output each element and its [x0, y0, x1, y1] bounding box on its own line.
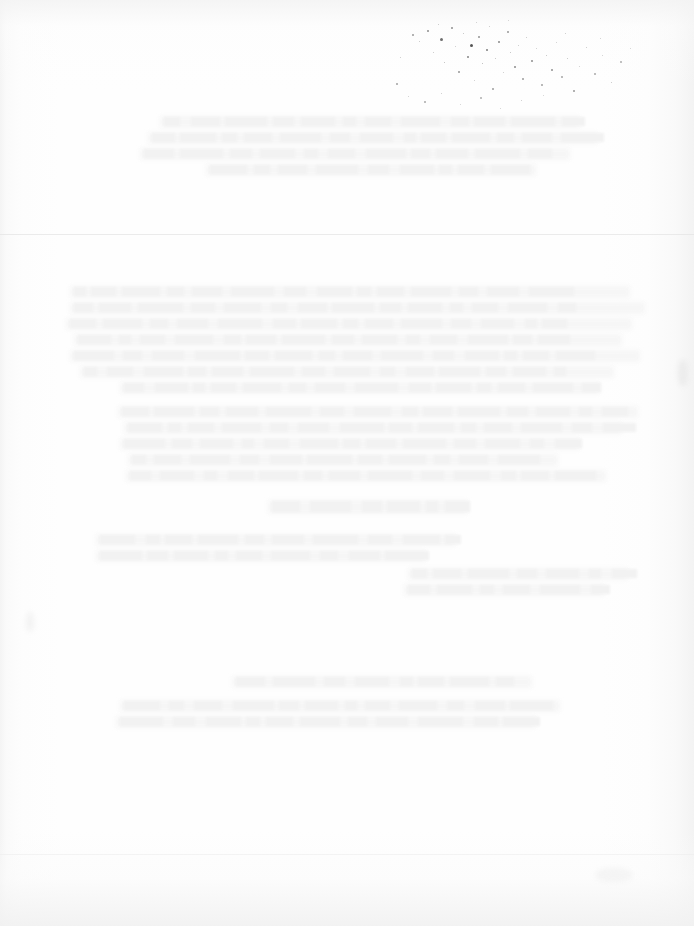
ghost-text-word	[266, 407, 311, 416]
ghost-text-word	[124, 439, 165, 448]
scan-seam-line-lower	[0, 854, 694, 855]
ghost-text-word	[554, 367, 566, 376]
ghost-text-word	[328, 149, 355, 158]
ghost-text-word	[319, 351, 335, 360]
ghost-text-word	[132, 455, 146, 464]
ghost-text-word	[497, 133, 514, 142]
ghost-text-word	[200, 439, 233, 448]
ghost-text-word	[144, 367, 183, 376]
ghost-text-word	[496, 677, 514, 686]
ghost-text-word	[423, 407, 452, 416]
ghost-text-word	[486, 367, 506, 376]
ghost-text-word	[418, 423, 454, 432]
ghost-text-word	[355, 383, 398, 392]
ghost-text-word	[451, 117, 469, 126]
ghost-text-word	[349, 551, 380, 560]
toner-speck	[620, 61, 622, 63]
ghost-text-word	[458, 407, 500, 416]
ghost-text-word	[215, 551, 228, 560]
ghost-text-word	[193, 383, 205, 392]
ghost-text-word	[100, 551, 142, 560]
ghost-text-word	[376, 717, 408, 726]
toner-speck	[543, 95, 544, 96]
ghost-text-word	[508, 303, 547, 312]
ghost-text-word	[195, 351, 240, 360]
ghost-text-word	[320, 407, 344, 416]
smudge-mark	[596, 868, 632, 882]
ghost-text-word	[401, 117, 440, 126]
toner-speck	[438, 24, 439, 25]
ghost-text-word	[421, 471, 444, 480]
toner-speck	[561, 76, 563, 78]
toner-speck	[518, 45, 519, 46]
ghost-text-word	[418, 677, 444, 686]
ghost-text-word	[421, 133, 446, 142]
ghost-text-word	[188, 423, 214, 432]
ghost-text-word	[324, 677, 345, 686]
ghost-text-word	[278, 165, 307, 174]
ghost-text-word	[513, 367, 546, 376]
ghost-text-word	[343, 351, 372, 360]
toner-speck	[400, 57, 401, 58]
ghost-text-word	[400, 677, 413, 686]
ghost-text-word	[362, 335, 397, 344]
ghost-text-word	[340, 423, 384, 432]
ghost-text-word	[402, 407, 418, 416]
toner-speck	[565, 33, 566, 34]
toner-speck	[482, 63, 483, 64]
ghost-text-word	[282, 335, 325, 344]
ghost-text-word	[198, 535, 238, 544]
toner-speck	[460, 104, 461, 105]
ghost-text-word	[334, 367, 370, 376]
toner-speck	[573, 90, 575, 92]
ghost-text-word	[555, 439, 582, 448]
ghost-text-word	[503, 717, 540, 726]
ghost-text-word	[400, 165, 434, 174]
toner-speck	[611, 82, 612, 83]
ghost-text-word	[140, 335, 165, 344]
ghost-text-word	[329, 471, 360, 480]
ghost-text-word	[254, 165, 270, 174]
ghost-text-word	[358, 455, 382, 464]
ghost-text-word	[169, 701, 184, 710]
ghost-text-word	[244, 133, 272, 142]
toner-speck	[476, 22, 477, 23]
ghost-text-word	[264, 439, 289, 448]
ghost-text-word	[511, 117, 555, 126]
toner-speck	[630, 48, 631, 49]
ghost-text-word	[412, 569, 427, 578]
ghost-text-word	[540, 585, 580, 594]
ghost-text-word	[152, 133, 175, 142]
ghost-text-word	[231, 287, 274, 296]
ghost-text-word	[434, 455, 450, 464]
ghost-text-word	[192, 287, 222, 296]
ghost-text-word	[304, 471, 322, 480]
toner-speck	[500, 108, 501, 109]
ghost-text-word	[313, 535, 358, 544]
toner-speck	[455, 46, 456, 47]
ghost-text-word	[245, 535, 264, 544]
toner-speck	[427, 30, 429, 32]
ghost-text-word	[177, 319, 208, 328]
smudge-mark	[678, 360, 688, 386]
ghost-text-word	[409, 383, 431, 392]
ghost-text-word	[538, 335, 570, 344]
ghost-text-word	[507, 407, 528, 416]
ghost-text-word	[273, 117, 294, 126]
ghost-text-word	[173, 717, 195, 726]
ghost-text-word	[103, 319, 142, 328]
ghost-text-word	[155, 383, 188, 392]
ghost-text-word	[458, 165, 484, 174]
ghost-text-word	[498, 455, 540, 464]
ghost-text-word	[226, 407, 258, 416]
ghost-text-word	[389, 423, 412, 432]
ghost-text-word	[168, 423, 181, 432]
ghost-text-word	[289, 383, 306, 392]
ghost-text-word	[298, 303, 327, 312]
ghost-text-word	[301, 117, 335, 126]
ghost-text-word	[523, 351, 549, 360]
ghost-text-word	[381, 351, 423, 360]
ghost-text-word	[528, 149, 552, 158]
ghost-text-word	[204, 471, 217, 480]
ghost-text-word	[387, 501, 420, 512]
